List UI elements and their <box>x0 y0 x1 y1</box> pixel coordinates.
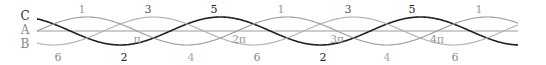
curve-label-b: B <box>21 37 30 51</box>
trough-label: 4 <box>188 51 195 64</box>
trough-label: 6 <box>452 51 459 64</box>
peak-label: 1 <box>278 3 285 16</box>
pi-label: 4π <box>430 33 444 46</box>
trough-label: 6 <box>55 51 62 64</box>
trough-labels: 6246246 <box>55 51 459 64</box>
pi-label: π <box>133 33 140 46</box>
curve-label-a: A <box>20 23 30 37</box>
peak-label: 3 <box>145 3 152 16</box>
curve-label-c: C <box>20 9 29 23</box>
peak-label: 1 <box>79 3 86 16</box>
peak-label: 5 <box>409 3 416 16</box>
curve-labels: CAB <box>20 9 30 51</box>
trough-label: 6 <box>254 51 261 64</box>
peak-labels: 1351351 <box>79 3 483 16</box>
pi-label: 2π <box>232 33 246 46</box>
trough-label: 4 <box>384 51 391 64</box>
trough-label: 2 <box>121 51 128 64</box>
peak-label: 3 <box>345 3 352 16</box>
diagram-canvas: CAB 1351351 6246246 π2π3π4π <box>0 0 546 65</box>
peak-label: 1 <box>476 3 483 16</box>
trough-label: 2 <box>320 51 327 64</box>
three-phase-diagram: CAB 1351351 6246246 π2π3π4π <box>0 0 546 65</box>
pi-label: 3π <box>330 33 344 46</box>
peak-label: 5 <box>211 3 218 16</box>
